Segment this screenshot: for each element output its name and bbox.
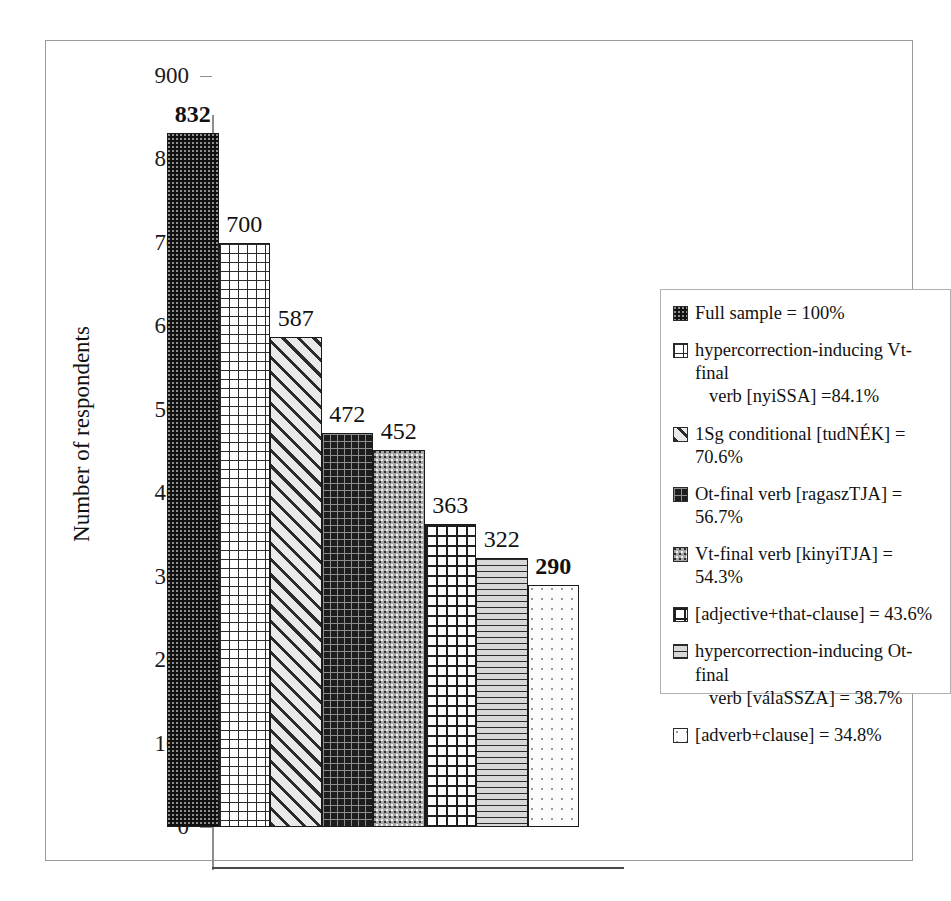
legend-swatch-icon bbox=[673, 644, 688, 659]
bar-value-label: 322 bbox=[470, 527, 534, 551]
bar bbox=[270, 337, 322, 827]
legend-item-line2: verb [nyiSSA] =84.1% bbox=[695, 385, 940, 408]
legend-item: Ot-final verb [ragaszTJA] = 56.7% bbox=[673, 483, 940, 529]
legend-item: Full sample = 100% bbox=[673, 302, 940, 325]
legend-item-label: hypercorrection-inducing Ot-finalverb [v… bbox=[695, 640, 940, 709]
x-axis-line bbox=[212, 867, 624, 869]
legend-swatch-icon bbox=[673, 487, 688, 502]
plot-area: 832700587472452363322290 bbox=[167, 76, 579, 827]
legend-item: [adverb+clause] = 34.8% bbox=[673, 724, 940, 747]
y-axis-tick bbox=[200, 827, 212, 828]
legend-item-label: [adverb+clause] = 34.8% bbox=[695, 724, 882, 747]
legend-item-label: Full sample = 100% bbox=[695, 302, 845, 325]
legend-swatch-icon bbox=[673, 547, 688, 562]
bar bbox=[476, 558, 528, 827]
legend-swatch-icon bbox=[673, 343, 688, 358]
legend-item-label: Ot-final verb [ragaszTJA] = 56.7% bbox=[695, 483, 940, 529]
bar-value-label: 290 bbox=[522, 554, 586, 578]
legend-swatch-icon bbox=[673, 728, 688, 743]
legend-item-line1: hypercorrection-inducing Ot-final bbox=[695, 641, 912, 684]
legend-item-line1: Ot-final verb [ragaszTJA] = 56.7% bbox=[695, 484, 902, 527]
legend-item: [adjective+that-clause] = 43.6% bbox=[673, 603, 940, 626]
bar-value-label: 700 bbox=[213, 212, 277, 236]
bar-value-label: 363 bbox=[419, 493, 483, 517]
y-axis-title: Number of respondents bbox=[69, 254, 95, 614]
bar-value-label: 832 bbox=[161, 102, 225, 126]
bar bbox=[528, 585, 580, 827]
legend-item: Vt-final verb [kinyiTJA] = 54.3% bbox=[673, 543, 940, 589]
legend-swatch-icon bbox=[673, 306, 688, 321]
legend-item-line1: hypercorrection-inducing Vt-final bbox=[695, 340, 912, 383]
legend-item-label: 1Sg conditional [tudNÉK] = 70.6% bbox=[695, 423, 940, 469]
bar bbox=[219, 243, 271, 827]
bar bbox=[167, 133, 219, 827]
legend-item-line2: verb [válaSSZA] = 38.7% bbox=[695, 687, 940, 710]
legend-item-line1: Vt-final verb [kinyiTJA] = 54.3% bbox=[695, 544, 893, 587]
bar bbox=[373, 450, 425, 827]
legend-item-line1: [adjective+that-clause] = 43.6% bbox=[695, 604, 932, 624]
legend-item-label: Vt-final verb [kinyiTJA] = 54.3% bbox=[695, 543, 940, 589]
bar-value-label: 452 bbox=[367, 419, 431, 443]
figure-frame: 9008007006005004003002001000 Number of r… bbox=[45, 40, 913, 861]
legend-item-line1: Full sample = 100% bbox=[695, 303, 845, 323]
chart-legend: Full sample = 100%hypercorrection-induci… bbox=[660, 289, 951, 694]
bar bbox=[425, 524, 477, 827]
legend-item-label: hypercorrection-inducing Vt-finalverb [n… bbox=[695, 339, 940, 408]
legend-item: 1Sg conditional [tudNÉK] = 70.6% bbox=[673, 423, 940, 469]
legend-item: hypercorrection-inducing Vt-finalverb [n… bbox=[673, 339, 940, 408]
legend-item-line1: [adverb+clause] = 34.8% bbox=[695, 725, 882, 745]
legend-item-label: [adjective+that-clause] = 43.6% bbox=[695, 603, 932, 626]
legend-swatch-icon bbox=[673, 427, 688, 442]
bar-value-label: 587 bbox=[264, 306, 328, 330]
bar bbox=[322, 433, 374, 827]
legend-item: hypercorrection-inducing Ot-finalverb [v… bbox=[673, 640, 940, 709]
legend-swatch-icon bbox=[673, 607, 688, 622]
legend-item-line1: 1Sg conditional [tudNÉK] = 70.6% bbox=[695, 424, 905, 467]
